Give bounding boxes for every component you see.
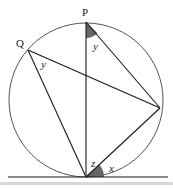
chord-QT bbox=[28, 50, 86, 177]
angle-label-z: z bbox=[90, 157, 96, 169]
chord-PR bbox=[86, 22, 160, 108]
chord-QR bbox=[28, 50, 160, 108]
circle-theorem-diagram: P Q y y z x bbox=[0, 0, 173, 189]
label-Q: Q bbox=[16, 37, 24, 49]
angle-label-y-q: y bbox=[40, 58, 46, 70]
chord-RT bbox=[86, 108, 160, 177]
angle-label-x: x bbox=[108, 162, 114, 174]
label-P: P bbox=[82, 6, 88, 18]
footer-bar bbox=[0, 182, 173, 185]
angle-label-y-p: y bbox=[92, 40, 98, 52]
